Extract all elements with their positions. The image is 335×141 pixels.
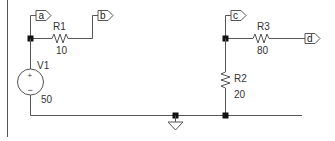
v1-value-label: 50 [41,94,53,105]
net-flag-d[interactable]: d [305,33,320,44]
junction-dot [223,113,229,119]
v1-minus-sign: − [28,85,33,95]
net-flag-b-label: b [100,10,106,21]
net-flag-c-label: c [233,10,238,21]
v1-plus-sign: + [28,71,33,80]
r1-value-label: 10 [56,45,68,56]
v1-name-label: V1 [37,60,50,71]
net-flag-a[interactable]: a [31,10,52,38]
resistor-r3[interactable] [253,34,269,43]
resistor-r2[interactable] [221,72,230,88]
r1-name-label: R1 [53,21,66,32]
net-flag-c[interactable]: c [226,10,247,38]
r2-value-label: 20 [234,89,246,100]
ground-icon [168,116,183,131]
wire [68,16,98,39]
net-flag-d-label: d [307,33,313,44]
r3-name-label: R3 [257,21,270,32]
net-flag-a-label: a [39,10,45,21]
schematic-canvas: a R1 10 b + − V1 50 c R3 80 [0,0,335,141]
voltage-source-v1[interactable]: + − [18,69,44,95]
net-flag-b[interactable]: b [98,10,113,21]
wire [31,95,303,116]
r3-value-label: 80 [257,45,269,56]
resistor-r1[interactable] [52,34,68,43]
r2-name-label: R2 [234,73,247,84]
